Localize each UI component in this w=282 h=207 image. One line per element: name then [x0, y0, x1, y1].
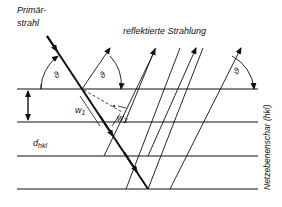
primary-beam-label-1: Primär- [17, 5, 46, 15]
w1-label: w1 [75, 105, 85, 118]
primary-beam-label-2: strahl [17, 18, 39, 28]
reflected-beam-1 [82, 48, 110, 89]
d-hkl-label: dhkl [33, 138, 47, 151]
w2-label: w2 [117, 113, 127, 126]
reflected-radiation-label: reflektierte Strahlung [123, 26, 206, 36]
angle-arcs [41, 56, 254, 89]
primary-beam [47, 36, 148, 189]
d-sub: hkl [38, 142, 47, 149]
lattice-planes-label: Netzebenenschar (hkl) [262, 104, 272, 190]
w1-sub: 1 [82, 109, 86, 116]
w2-sub: 2 [124, 117, 128, 124]
reflected-beams [82, 48, 241, 189]
